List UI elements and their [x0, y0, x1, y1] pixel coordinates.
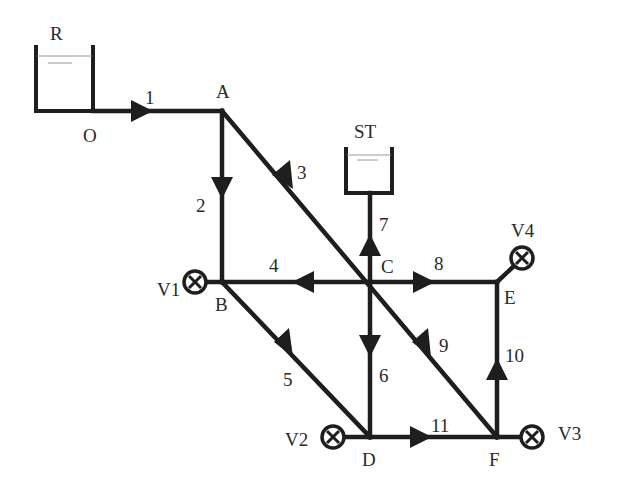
- arrow-left-icon: [292, 271, 314, 293]
- node-label-o: O: [83, 125, 97, 146]
- pipe-label-1: 1: [145, 87, 155, 108]
- valve-label-v4: V4: [511, 220, 535, 241]
- node-label-a: A: [216, 81, 230, 102]
- pipe-label-8: 8: [434, 253, 444, 274]
- reservoir-st: ST: [346, 121, 392, 193]
- pipe-label-7: 7: [379, 214, 389, 235]
- valve-v4-icon: [511, 247, 533, 269]
- pipe-label-2: 2: [196, 195, 206, 216]
- node-label-b: B: [215, 294, 228, 315]
- arrow-diagonal-icon: [412, 328, 431, 357]
- valve-label-v2: V2: [285, 429, 308, 450]
- arrow-right-icon: [410, 426, 432, 448]
- node-label-d: D: [362, 449, 376, 470]
- pipe-5: [222, 282, 370, 437]
- arrow-right-icon: [413, 271, 435, 293]
- reservoir-st-label: ST: [354, 121, 377, 142]
- valve-label-v1: V1: [157, 279, 180, 300]
- reservoir-r: R: [36, 23, 93, 111]
- reservoir-r-label: R: [50, 23, 63, 44]
- pipe-label-11: 11: [431, 415, 449, 436]
- valve-v3-icon: [521, 426, 543, 448]
- valve-v1-icon: [184, 271, 206, 293]
- valve-label-v3: V3: [558, 423, 581, 444]
- pipe-label-10: 10: [505, 345, 524, 366]
- pipe-label-6: 6: [379, 365, 389, 386]
- valve-stub-v4: [497, 266, 514, 282]
- pipe-label-5: 5: [283, 369, 293, 390]
- node-label-e: E: [504, 287, 516, 308]
- arrow-down-icon: [359, 335, 381, 357]
- arrow-up-icon: [359, 234, 381, 256]
- pipe-label-9: 9: [439, 335, 449, 356]
- valve-v2-icon: [322, 426, 344, 448]
- pipes: [93, 111, 522, 437]
- node-label-f: F: [489, 449, 500, 470]
- pipe-network-diagram: R ST: [0, 0, 618, 488]
- arrow-diagonal-icon: [274, 328, 293, 357]
- pipe-label-4: 4: [269, 255, 279, 276]
- pipe-label-3: 3: [297, 162, 307, 183]
- node-label-c: C: [381, 256, 394, 277]
- arrow-down-icon: [211, 177, 233, 199]
